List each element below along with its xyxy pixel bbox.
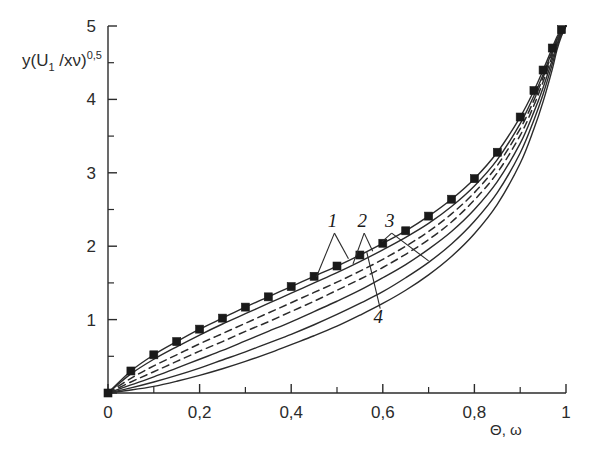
- y-axis-title-main-b: /xν): [55, 51, 87, 70]
- data-point-marker: [287, 283, 295, 291]
- y-tick-label: 2: [87, 237, 96, 256]
- curve-number-label-1: 1: [328, 210, 338, 231]
- line-chart-svg: 12345 00,20,40,60,81 1234 y(U1 /xν)0,5 Θ…: [0, 0, 597, 451]
- data-point-marker: [264, 293, 272, 301]
- data-point-marker: [470, 175, 478, 183]
- data-point-marker: [448, 195, 456, 203]
- x-axis-title: Θ, ω: [490, 421, 522, 438]
- x-tick-label: 0,4: [279, 403, 303, 422]
- y-axis-title-superscript: 0,5: [87, 49, 102, 61]
- x-tick-label: 0,2: [188, 403, 212, 422]
- data-point-marker: [493, 148, 501, 156]
- x-tick-label: 0,8: [463, 403, 487, 422]
- data-point-marker: [425, 212, 433, 220]
- y-tick-label: 4: [87, 90, 96, 109]
- data-point-marker: [333, 262, 341, 270]
- data-point-marker: [557, 26, 565, 34]
- data-point-marker: [548, 44, 556, 52]
- data-point-marker: [150, 351, 158, 359]
- chart-background: [0, 0, 597, 451]
- data-point-marker: [516, 113, 524, 121]
- data-point-marker: [196, 325, 204, 333]
- curve-number-label-2: 2: [357, 210, 367, 231]
- y-tick-label: 3: [87, 164, 96, 183]
- data-point-marker: [219, 314, 227, 322]
- x-tick-label: 0,6: [371, 403, 395, 422]
- y-tick-label: 5: [87, 17, 96, 36]
- chart-figure: 12345 00,20,40,60,81 1234 y(U1 /xν)0,5 Θ…: [0, 0, 597, 451]
- data-point-marker: [241, 303, 249, 311]
- data-point-marker: [173, 338, 181, 346]
- y-tick-label: 1: [87, 311, 96, 330]
- x-tick-label: 0: [103, 403, 112, 422]
- data-point-marker: [104, 389, 112, 397]
- y-axis-title-main-a: y(U: [22, 51, 48, 70]
- x-tick-label: 1: [561, 403, 570, 422]
- data-point-marker: [539, 66, 547, 74]
- curve-number-label-3: 3: [384, 210, 395, 231]
- data-point-marker: [402, 227, 410, 235]
- data-point-marker: [530, 87, 538, 95]
- curve-number-label-4: 4: [373, 306, 383, 327]
- data-point-marker: [127, 367, 135, 375]
